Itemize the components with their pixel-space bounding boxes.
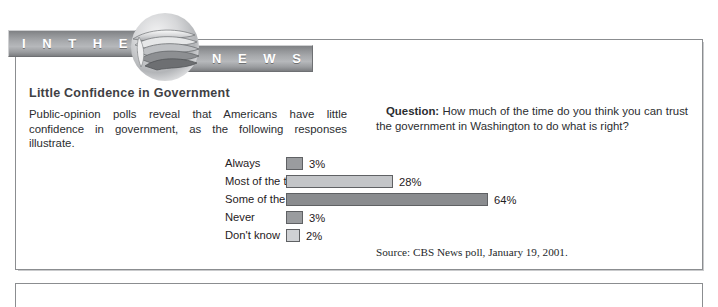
poll-question: Question: How much of the time do you th… — [376, 104, 688, 133]
chart-row-label: Don't know — [225, 229, 280, 241]
chart-row: Most of the time28% — [225, 173, 625, 191]
newspaper-roll-icon — [127, 9, 203, 85]
chart-row: Always3% — [225, 155, 625, 173]
chart-row-label: Never — [225, 211, 255, 223]
chart-bar — [286, 193, 488, 206]
poll-results-chart: Always3%Most of the time28%Some of the t… — [225, 155, 625, 245]
in-the-news-banner: I N T H E N E W S — [0, 0, 330, 86]
chart-row: Some of the time64% — [225, 191, 625, 209]
next-section-panel — [15, 283, 703, 307]
chart-row-label: Always — [225, 157, 260, 169]
article-body-text: Public-opinion polls reveal that America… — [29, 107, 347, 151]
chart-row: Never3% — [225, 209, 625, 227]
chart-bar-value: 64% — [494, 194, 516, 206]
chart-bar — [286, 175, 393, 188]
chart-row: Don't know2% — [225, 227, 625, 245]
banner-label-news: N E W S — [212, 51, 307, 66]
question-label: Question: — [386, 105, 439, 117]
banner-label-in-the: I N T H E — [22, 36, 134, 51]
chart-bar — [286, 157, 303, 170]
chart-bar-value: 28% — [399, 176, 421, 188]
chart-bar — [286, 211, 303, 224]
chart-bar — [286, 229, 300, 242]
page-title: Little Confidence in Government — [29, 86, 230, 100]
chart-bar-value: 3% — [309, 212, 325, 224]
chart-bar-value: 2% — [306, 230, 322, 242]
chart-source-line: Source: CBS News poll, January 19, 2001. — [376, 246, 568, 258]
chart-bar-value: 3% — [309, 158, 325, 170]
